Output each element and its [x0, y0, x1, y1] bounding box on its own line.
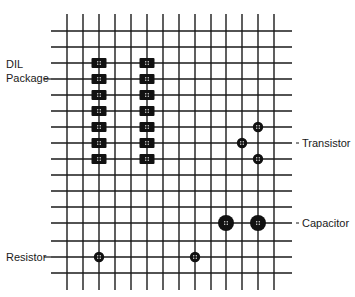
pad-hole — [148, 141, 149, 142]
pad-hole — [145, 157, 146, 158]
capacitor-label: Capacitor — [302, 217, 349, 230]
dil-pad-icon — [92, 154, 107, 164]
pad-hole — [145, 77, 146, 78]
pad-hole — [240, 141, 241, 142]
pad-hole — [97, 96, 98, 97]
pad-hole — [148, 109, 149, 110]
pad-hole — [259, 221, 260, 222]
dil-pad-icon — [140, 154, 155, 164]
pad-hole — [259, 125, 260, 126]
pad-hole — [259, 128, 260, 129]
pad-hole — [97, 125, 98, 126]
pad-hole — [227, 224, 228, 225]
dil-pad-icon — [92, 90, 107, 100]
pad-hole — [227, 221, 228, 222]
pad-hole — [97, 144, 98, 145]
dil-pad-icon — [140, 74, 155, 84]
pad-hole — [145, 93, 146, 94]
pad-hole — [256, 157, 257, 158]
pad-hole — [148, 61, 149, 62]
pad-hole — [100, 61, 101, 62]
pad-hole — [145, 109, 146, 110]
transistor-pad-icon — [253, 154, 263, 164]
resistor-pad-icon — [94, 252, 104, 262]
pad-hole — [256, 160, 257, 161]
pad-hole — [100, 157, 101, 158]
pad-hole — [100, 141, 101, 142]
pad-hole — [193, 255, 194, 256]
pad-hole — [100, 258, 101, 259]
dil-pad-icon — [92, 58, 107, 68]
transistor-label: Transistor — [302, 137, 351, 150]
dil-pad-icon — [92, 106, 107, 116]
pad-hole — [97, 80, 98, 81]
pad-hole — [97, 157, 98, 158]
dil-label-line2: Package — [6, 72, 49, 85]
pad-hole — [97, 128, 98, 129]
pad-hole — [100, 128, 101, 129]
pad-hole — [193, 258, 194, 259]
pad-hole — [145, 125, 146, 126]
pad-hole — [148, 157, 149, 158]
transistor-pad-icon — [237, 138, 247, 148]
pad-hole — [100, 160, 101, 161]
pad-hole — [240, 144, 241, 145]
pad-hole — [148, 93, 149, 94]
pad-hole — [97, 160, 98, 161]
capacitor-pad-icon — [218, 215, 234, 231]
pad-hole — [259, 157, 260, 158]
resistor-label: Resistor — [6, 251, 46, 264]
pad-hole — [145, 64, 146, 65]
dil-label-line1: DIL — [6, 58, 23, 71]
pad-hole — [145, 128, 146, 129]
pad-hole — [97, 77, 98, 78]
pad-hole — [100, 77, 101, 78]
pad-hole — [148, 112, 149, 113]
pad-hole — [100, 112, 101, 113]
pad-hole — [148, 125, 149, 126]
pad-hole — [259, 224, 260, 225]
dil-pad-icon — [92, 122, 107, 132]
pad-hole — [148, 64, 149, 65]
pad-hole — [243, 144, 244, 145]
pad-hole — [148, 160, 149, 161]
pad-hole — [100, 255, 101, 256]
dil-pad-icon — [140, 90, 155, 100]
pad-hole — [97, 141, 98, 142]
pad-hole — [97, 109, 98, 110]
pad-hole — [256, 128, 257, 129]
pad-hole — [100, 144, 101, 145]
pad-hole — [97, 93, 98, 94]
pad-hole — [224, 224, 225, 225]
dil-pad-icon — [140, 122, 155, 132]
pad-hole — [97, 61, 98, 62]
dil-pad-icon — [140, 138, 155, 148]
pad-hole — [145, 160, 146, 161]
pad-hole — [196, 255, 197, 256]
pad-hole — [256, 221, 257, 222]
pad-hole — [97, 255, 98, 256]
capacitor-pad-icon — [250, 215, 266, 231]
transistor-pad-icon — [253, 122, 263, 132]
pad-hole — [148, 96, 149, 97]
pad-hole — [224, 221, 225, 222]
dil-pad-icon — [140, 58, 155, 68]
pad-hole — [256, 125, 257, 126]
pad-hole — [243, 141, 244, 142]
pad-hole — [100, 96, 101, 97]
pad-hole — [196, 258, 197, 259]
dil-pad-icon — [140, 106, 155, 116]
resistor-pad-icon — [190, 252, 200, 262]
grid-lines — [44, 14, 299, 290]
pad-hole — [148, 144, 149, 145]
pad-hole — [148, 80, 149, 81]
pad-hole — [145, 144, 146, 145]
pad-hole — [97, 112, 98, 113]
pad-hole — [100, 125, 101, 126]
pad-hole — [100, 64, 101, 65]
pad-hole — [256, 224, 257, 225]
pad-hole — [100, 109, 101, 110]
pad-hole — [148, 77, 149, 78]
pad-hole — [100, 80, 101, 81]
pad-hole — [145, 96, 146, 97]
